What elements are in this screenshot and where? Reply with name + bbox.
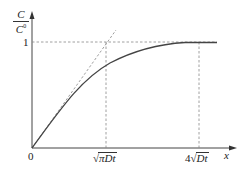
x-axis-arrow-icon: [229, 146, 237, 151]
y-label-den-sup: 0: [23, 23, 26, 29]
x-tick-0-radicand: πDt: [98, 152, 117, 164]
x-tick-sqrt-pi-dt: √πDt: [93, 152, 117, 164]
origin-label: 0: [28, 151, 34, 162]
y-tick-1: 1: [23, 37, 29, 48]
x-axis-label: x: [224, 150, 229, 161]
chart: [0, 0, 251, 170]
x-tick-1-radicand: Dt: [196, 152, 209, 164]
y-label-denominator: C0: [13, 22, 29, 35]
y-label-numerator: C: [13, 9, 29, 22]
concentration-curve: [32, 43, 217, 149]
x-tick-4-sqrt-dt: 4√Dt: [185, 152, 209, 164]
y-axis-label: C C0: [13, 9, 29, 35]
y-axis-arrow-icon: [30, 11, 35, 19]
